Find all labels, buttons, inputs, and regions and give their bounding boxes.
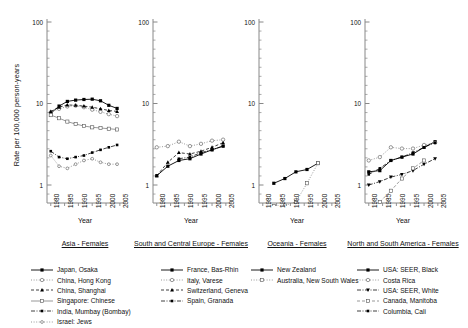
legend-item: Costa Rica xyxy=(356,275,439,285)
y-tick-label: 1 xyxy=(237,182,255,189)
legend-label: USA: SEER, Black xyxy=(380,265,438,275)
legend-marker xyxy=(356,275,380,286)
x-tick-label: 2005 xyxy=(334,194,341,208)
legend-marker xyxy=(30,306,54,317)
legend-marker xyxy=(356,296,380,307)
legend-item: Switzerland, Geneva xyxy=(160,286,248,296)
legend-label: New Zealand xyxy=(274,265,316,275)
x-tick-label: 2005 xyxy=(228,194,235,208)
legend-column-2: France, Bas-RhinItaly, VareseSwitzerland… xyxy=(160,265,248,307)
legend-item: Israel: Jews xyxy=(30,317,131,327)
legend-item: China, Shanghai xyxy=(30,286,131,296)
x-axis-title: Year xyxy=(254,217,340,224)
legend-marker xyxy=(30,285,54,296)
x-tick-label: 2005 xyxy=(122,194,129,208)
legend-marker xyxy=(250,265,274,276)
x-tick-label: 2000 xyxy=(109,194,116,208)
legend-label: USA: SEER, White xyxy=(380,286,439,296)
x-tick-label: 1985 xyxy=(173,194,180,208)
x-tick-label: 1985 xyxy=(67,194,74,208)
x-axis-title: Year xyxy=(148,217,234,224)
y-tick-label: 10 xyxy=(25,100,43,107)
x-axis-title: Year xyxy=(42,217,128,224)
panel-2: 100101198019851990199520002005 xyxy=(148,18,234,206)
panel-1: 100101198019851990199520002005 xyxy=(42,18,128,206)
x-axis-title: Year xyxy=(360,217,446,224)
series-2 xyxy=(155,138,225,149)
legend-marker xyxy=(250,275,274,286)
legend-item: Spain, Granada xyxy=(160,296,248,306)
legend-label: Spain, Granada xyxy=(184,296,233,306)
legend-marker xyxy=(30,265,54,276)
legend-marker xyxy=(356,306,380,317)
legend-item: India, Mumbay (Bombay) xyxy=(30,307,131,317)
y-tick-label: 1 xyxy=(25,182,43,189)
x-tick-label: 1995 xyxy=(307,194,314,208)
legend-marker xyxy=(356,285,380,296)
figure-root: 100101198019851990199520002005YearAsia -… xyxy=(0,0,468,328)
series-2 xyxy=(367,141,437,162)
x-tick-label: 1980 xyxy=(371,194,378,208)
legend-item: Australia, New South Wales xyxy=(250,275,358,285)
series-5 xyxy=(49,144,118,160)
legend-marker xyxy=(30,275,54,286)
legend-label: Japan, Osaka xyxy=(54,265,98,275)
y-tick-label: 10 xyxy=(131,100,149,107)
legend-item: China, Hong Kong xyxy=(30,275,131,285)
legend-marker xyxy=(356,265,380,276)
y-tick-label: 100 xyxy=(237,19,255,26)
legend-column-1: Japan, OsakaChina, Hong KongChina, Shang… xyxy=(30,265,131,327)
legend-marker xyxy=(30,296,54,307)
x-tick-label: 1995 xyxy=(201,194,208,208)
x-tick-label: 1985 xyxy=(385,194,392,208)
legend-label: France, Bas-Rhin xyxy=(184,265,238,275)
panel-3: 100101198019851990199520002005 xyxy=(254,18,340,206)
y-tick-label: 100 xyxy=(25,19,43,26)
legend-item: USA: SEER, White xyxy=(356,286,439,296)
x-tick-label: 1995 xyxy=(95,194,102,208)
legend-marker xyxy=(160,296,184,307)
x-tick-label: 2000 xyxy=(215,194,222,208)
legend-label: Italy, Varese xyxy=(184,276,223,286)
legend-label: India, Mumbay (Bombay) xyxy=(54,307,131,317)
legend-item: Italy, Varese xyxy=(160,275,248,285)
legend-marker xyxy=(30,317,54,328)
x-tick-label: 1990 xyxy=(187,194,194,208)
legend-label: China, Shanghai xyxy=(54,286,106,296)
panel-title: North and South America - Females xyxy=(320,240,468,247)
legend-marker xyxy=(160,275,184,286)
x-tick-label: 2000 xyxy=(321,194,328,208)
legend-item: New Zealand xyxy=(250,265,358,275)
legend-item: USA: SEER, Black xyxy=(356,265,439,275)
y-tick-label: 10 xyxy=(237,100,255,107)
x-tick-label: 1990 xyxy=(81,194,88,208)
x-tick-label: 1980 xyxy=(53,194,60,208)
x-tick-label: 1980 xyxy=(159,194,166,208)
series-3 xyxy=(367,157,437,187)
legend-label: Israel: Jews xyxy=(54,317,92,327)
legend-label: Australia, New South Wales xyxy=(274,276,358,286)
x-tick-label: 2000 xyxy=(427,194,434,208)
legend-label: Costa Rica xyxy=(380,276,415,286)
series-1 xyxy=(155,145,225,178)
y-tick-label: 100 xyxy=(343,19,361,26)
legend-column-3: New ZealandAustralia, New South Wales xyxy=(250,265,358,286)
legend-item: Japan, Osaka xyxy=(30,265,131,275)
series-4 xyxy=(178,145,225,160)
legend-item: Singapore: Chinese xyxy=(30,296,131,306)
y-tick-label: 1 xyxy=(131,182,149,189)
y-tick-label: 1 xyxy=(343,182,361,189)
x-tick-label: 1990 xyxy=(293,194,300,208)
legend-label: Canada, Manitoba xyxy=(380,296,437,306)
y-tick-label: 10 xyxy=(343,100,361,107)
x-tick-label: 1995 xyxy=(413,194,420,208)
legend-label: Switzerland, Geneva xyxy=(184,286,248,296)
legend-column-4: USA: SEER, BlackCosta RicaUSA: SEER, Whi… xyxy=(356,265,439,317)
series-4 xyxy=(49,114,119,132)
legend-marker xyxy=(160,265,184,276)
x-tick-label: 2005 xyxy=(440,194,447,208)
legend-marker xyxy=(160,285,184,296)
legend-item: Columbia, Cali xyxy=(356,307,439,317)
y-axis-label: Rate per 100,000 person-years xyxy=(12,40,21,190)
x-tick-label: 1985 xyxy=(279,194,286,208)
